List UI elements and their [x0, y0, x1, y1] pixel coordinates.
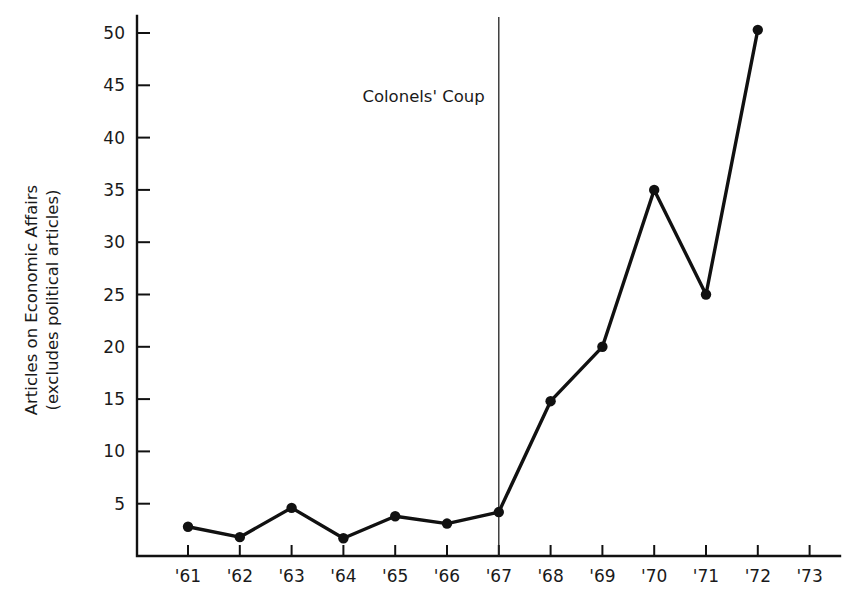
economic-affairs-line-chart: Articles on Economic Affairs (excludes p… — [0, 0, 868, 604]
x-tick-label: '72 — [745, 566, 771, 586]
series-line-economic-affairs — [188, 30, 758, 538]
x-tick-label: '61 — [175, 566, 201, 586]
y-tick-label: 40 — [103, 128, 125, 148]
y-tick-label: 30 — [103, 232, 125, 252]
axis-lines — [137, 16, 840, 556]
x-tick-label: '68 — [537, 566, 563, 586]
data-point-marker — [701, 289, 711, 299]
data-point-marker — [753, 25, 763, 35]
x-tick-label: '69 — [589, 566, 615, 586]
y-tick-label: 15 — [103, 389, 125, 409]
axes — [137, 16, 840, 556]
x-tick-label: '71 — [693, 566, 719, 586]
data-point-marker — [545, 396, 555, 406]
y-axis-title-line1: Articles on Economic Affairs — [22, 185, 41, 415]
x-tick-label: '70 — [641, 566, 667, 586]
data-point-marker — [183, 522, 193, 532]
y-tick-label: 35 — [103, 180, 125, 200]
x-tick-label: '65 — [382, 566, 408, 586]
x-tick-label: '73 — [796, 566, 822, 586]
data-point-marker — [649, 185, 659, 195]
data-point-marker — [597, 342, 607, 352]
y-axis-title: Articles on Economic Affairs (excludes p… — [22, 185, 62, 415]
x-tick-label: '64 — [330, 566, 356, 586]
data-point-marker — [338, 533, 348, 543]
y-tick-label: 10 — [103, 441, 125, 461]
data-point-marker — [442, 518, 452, 528]
y-tick-label: 45 — [103, 75, 125, 95]
data-point-marker — [235, 532, 245, 542]
y-tick-label: 25 — [103, 285, 125, 305]
chart-container: Articles on Economic Affairs (excludes p… — [0, 0, 868, 604]
data-point-marker — [390, 511, 400, 521]
x-tick-label: '66 — [434, 566, 460, 586]
y-axis-ticks: 5101520253035404550 — [103, 23, 150, 514]
x-tick-label: '63 — [278, 566, 304, 586]
annotation-colonels-coup: Colonels' Coup — [362, 17, 498, 556]
y-axis-title-line2: (excludes political articles) — [43, 190, 62, 411]
data-point-marker — [286, 503, 296, 513]
y-tick-label: 20 — [103, 337, 125, 357]
y-tick-label: 50 — [103, 23, 125, 43]
x-tick-label: '62 — [227, 566, 253, 586]
y-tick-label: 5 — [114, 494, 125, 514]
event-label-text: Colonels' Coup — [362, 87, 484, 106]
data-point-marker — [494, 507, 504, 517]
x-tick-label: '67 — [486, 566, 512, 586]
